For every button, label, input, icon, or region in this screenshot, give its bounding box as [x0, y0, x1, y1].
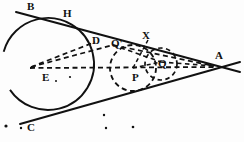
speckle-dot — [105, 127, 107, 129]
figure-canvas — [0, 0, 244, 142]
tangent-upper-BA — [16, 12, 240, 72]
tangent-lower-CA — [20, 62, 240, 124]
ray-E-to-D — [31, 42, 95, 67]
point-label-D: D — [92, 35, 100, 46]
ray-P-to-Q — [133, 62, 161, 68]
point-label-C: C — [27, 122, 35, 133]
circle-large-main — [0, 8, 104, 120]
speckle-dot — [103, 114, 105, 116]
speckle-dot — [20, 127, 22, 129]
point-label-E: E — [42, 72, 49, 83]
speckle-dot — [55, 80, 57, 82]
point-label-B: B — [27, 1, 34, 12]
point-label-P: P — [132, 72, 139, 83]
speckle-dot — [69, 76, 71, 78]
geometry-figure: B H D Q' X Q A E P C — [0, 0, 244, 142]
point-label-X: X — [142, 30, 150, 41]
chord-E-to-A — [30, 67, 214, 68]
point-label-Q-prime: Q' — [111, 38, 123, 49]
speckle-dot — [132, 126, 135, 129]
ray-E-to-Qp — [31, 45, 113, 67]
point-label-Q: Q — [158, 58, 167, 69]
speckle-dot — [4, 124, 7, 127]
point-label-A: A — [215, 50, 223, 61]
point-label-H: H — [63, 8, 72, 19]
